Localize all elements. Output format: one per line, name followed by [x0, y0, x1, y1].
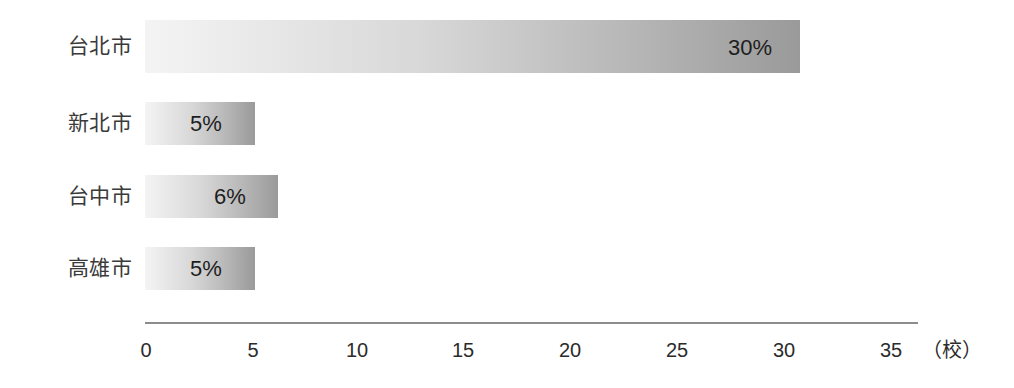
- bar-chart: 台北市 新北市 台中市 高雄市 30% 5% 6% 5% 0 5 10 15 2…: [0, 0, 1014, 388]
- category-label-taipei: 台北市: [40, 36, 132, 57]
- bar-value-kaohsiung: 5%: [190, 258, 222, 280]
- category-label-taichung: 台中市: [40, 186, 132, 207]
- bar-taipei: [145, 20, 800, 73]
- x-tick-20: 20: [550, 340, 590, 360]
- bar-value-taichung: 6%: [214, 186, 246, 208]
- x-tick-10: 10: [337, 340, 377, 360]
- x-tick-0: 0: [126, 340, 166, 360]
- category-label-kaohsiung: 高雄市: [40, 258, 132, 279]
- bar-taichung: [145, 175, 278, 218]
- x-tick-5: 5: [233, 340, 273, 360]
- x-axis-line: [145, 322, 918, 324]
- bar-value-taipei: 30%: [728, 37, 772, 59]
- category-label-newtaipei: 新北市: [40, 113, 132, 134]
- x-tick-35: 35: [871, 340, 911, 360]
- x-tick-15: 15: [443, 340, 483, 360]
- x-tick-30: 30: [764, 340, 804, 360]
- bar-value-newtaipei: 5%: [190, 113, 222, 135]
- x-axis-unit-label: （校）: [922, 340, 982, 360]
- x-tick-25: 25: [657, 340, 697, 360]
